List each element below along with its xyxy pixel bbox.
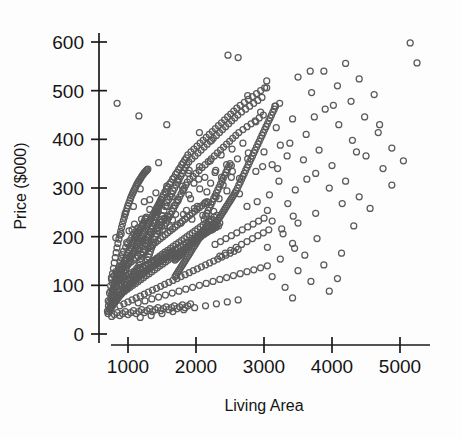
data-point: [269, 218, 275, 224]
data-point: [213, 301, 219, 307]
data-point: [197, 186, 203, 192]
data-point: [362, 114, 368, 120]
data-point: [321, 262, 327, 268]
data-point: [224, 299, 230, 305]
data-point: [264, 244, 270, 250]
data-point: [203, 280, 209, 286]
data-point: [237, 271, 243, 277]
data-point: [343, 178, 349, 184]
data-point: [196, 176, 202, 182]
data-point: [254, 199, 260, 205]
y-tick-label: 0: [73, 324, 84, 345]
data-point: [363, 153, 369, 159]
data-point: [313, 170, 319, 176]
data-point: [142, 298, 148, 304]
data-point: [334, 83, 340, 89]
data-point: [190, 284, 196, 290]
data-point: [137, 314, 143, 320]
data-point: [389, 145, 395, 151]
data-point: [269, 274, 275, 280]
data-point: [224, 275, 230, 281]
data-point: [260, 164, 266, 170]
data-point: [234, 156, 240, 162]
data-point: [147, 197, 153, 203]
data-point: [287, 140, 293, 146]
y-tick-label: 100: [52, 275, 84, 296]
data-point: [208, 180, 214, 186]
data-point: [258, 265, 264, 271]
data-point: [277, 256, 283, 262]
data-point: [400, 158, 406, 164]
data-point: [244, 203, 250, 209]
data-point: [282, 284, 288, 290]
x-tick-label: 2000: [175, 356, 217, 377]
data-point: [225, 52, 231, 58]
data-point: [164, 122, 170, 128]
data-point: [300, 157, 306, 163]
data-point: [339, 250, 345, 256]
data-point: [207, 158, 213, 164]
data-points-layer: [104, 40, 420, 320]
data-point: [261, 149, 267, 155]
data-point: [304, 176, 310, 182]
data-point: [156, 160, 162, 166]
data-point: [353, 149, 359, 155]
data-point: [275, 166, 281, 172]
data-point: [339, 201, 345, 207]
data-point: [156, 294, 162, 300]
data-point: [229, 146, 235, 152]
data-point: [196, 130, 202, 136]
data-point: [228, 174, 234, 180]
data-point: [414, 60, 420, 66]
data-point: [266, 192, 272, 198]
data-point: [308, 278, 314, 284]
data-point: [343, 60, 349, 66]
data-point: [349, 137, 355, 143]
data-point: [224, 188, 230, 194]
plot-canvas: 0100200300400500600 10002000300040005000…: [0, 0, 461, 439]
data-point: [303, 131, 309, 137]
data-point: [210, 278, 216, 284]
data-point: [314, 236, 320, 242]
x-axis: 10002000300040005000: [107, 337, 430, 377]
data-point: [240, 140, 246, 146]
data-point: [336, 122, 342, 128]
data-point: [162, 292, 168, 298]
data-point: [235, 297, 241, 303]
data-point: [322, 106, 328, 112]
data-point: [329, 163, 335, 169]
data-point: [169, 290, 175, 296]
data-point: [311, 114, 317, 120]
data-point: [389, 182, 395, 188]
data-point: [153, 190, 159, 196]
x-tick-label: 5000: [379, 356, 421, 377]
data-point: [273, 125, 279, 131]
data-point: [266, 227, 272, 233]
data-point: [251, 267, 257, 273]
data-point: [307, 68, 313, 74]
data-point: [136, 113, 142, 119]
y-tick-label: 500: [52, 81, 84, 102]
data-point: [326, 288, 332, 294]
data-point: [217, 276, 223, 282]
data-point: [183, 286, 189, 292]
data-point: [114, 100, 120, 106]
data-point: [326, 185, 332, 191]
data-point: [203, 303, 209, 309]
x-tick-label: 1000: [107, 356, 149, 377]
x-axis-title: Living Area: [224, 397, 303, 414]
data-point: [264, 207, 270, 213]
data-point: [302, 252, 308, 258]
data-point: [313, 210, 319, 216]
x-tick-label: 3000: [243, 356, 285, 377]
data-point: [192, 305, 198, 311]
data-point: [295, 220, 301, 226]
data-point: [316, 147, 322, 153]
data-point: [367, 205, 373, 211]
data-point: [290, 213, 296, 219]
scatter-plot-figure: 0100200300400500600 10002000300040005000…: [0, 0, 461, 439]
data-point: [261, 215, 267, 221]
data-point: [235, 55, 241, 61]
data-point: [321, 68, 327, 74]
data-point: [230, 273, 236, 279]
